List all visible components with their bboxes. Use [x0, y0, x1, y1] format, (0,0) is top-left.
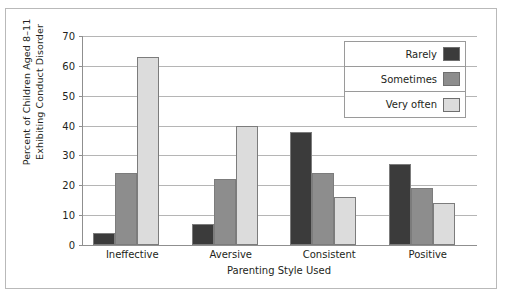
bar[interactable]	[334, 197, 356, 245]
y-tick-mark	[79, 66, 83, 67]
y-tick-label: 0	[35, 240, 75, 251]
bar[interactable]	[290, 132, 312, 245]
y-tick-label: 60	[35, 60, 75, 71]
x-tick-label: Ineffective	[83, 249, 182, 260]
bar-group	[93, 36, 159, 245]
legend-label: Very often	[386, 99, 437, 110]
y-tick-label: 10	[35, 210, 75, 221]
legend-item-very-often[interactable]: Very often	[345, 92, 465, 117]
legend-swatch-sometimes	[443, 72, 460, 86]
y-axis-title-line-1: Percent of Children Aged 8–11	[21, 0, 34, 197]
bar[interactable]	[433, 203, 455, 245]
legend-swatch-very-often	[443, 98, 460, 112]
chart-frame: Percent of Children Aged 8–11 Exhibiting…	[5, 8, 497, 289]
y-tick-mark	[79, 185, 83, 186]
y-tick-label: 50	[35, 90, 75, 101]
bar[interactable]	[137, 57, 159, 245]
y-tick-mark	[79, 215, 83, 216]
x-axis-title: Parenting Style Used	[82, 265, 476, 276]
legend-label: Sometimes	[381, 74, 437, 85]
y-tick-label: 20	[35, 180, 75, 191]
legend-label: Rarely	[405, 49, 437, 60]
bar[interactable]	[115, 173, 137, 245]
y-tick-label: 40	[35, 120, 75, 131]
bar[interactable]	[389, 164, 411, 245]
y-tick-label: 30	[35, 150, 75, 161]
y-tick-mark	[79, 96, 83, 97]
y-tick-mark	[79, 245, 83, 246]
legend-item-rarely[interactable]: Rarely	[345, 42, 465, 67]
bar[interactable]	[411, 188, 433, 245]
bar[interactable]	[312, 173, 334, 245]
legend-item-sometimes[interactable]: Sometimes	[345, 67, 465, 92]
chart-figure: Percent of Children Aged 8–11 Exhibiting…	[0, 0, 505, 302]
x-tick-label: Aversive	[182, 249, 281, 260]
bar[interactable]	[214, 179, 236, 245]
y-tick-mark	[79, 36, 83, 37]
chart-legend: Rarely Sometimes Very often	[344, 41, 466, 118]
bar[interactable]	[192, 224, 214, 245]
x-tick-label: Positive	[379, 249, 478, 260]
bar[interactable]	[93, 233, 115, 245]
y-tick-label: 70	[35, 31, 75, 42]
y-tick-mark	[79, 126, 83, 127]
y-tick-mark	[79, 155, 83, 156]
legend-swatch-rarely	[443, 47, 460, 61]
bar[interactable]	[236, 126, 258, 245]
bar-group	[192, 36, 258, 245]
x-tick-label: Consistent	[280, 249, 379, 260]
